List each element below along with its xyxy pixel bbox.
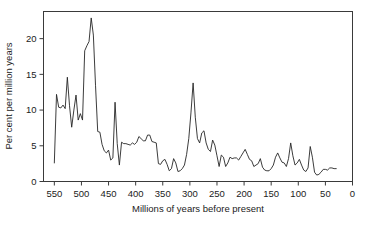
x-tick-label: 500 [74,188,90,199]
x-axis-title: Millions of years before present [132,203,264,214]
x-axis-ticks [54,182,352,186]
x-tick-label: 550 [46,188,62,199]
y-tick-label: 20 [26,33,37,44]
y-tick-label: 10 [26,104,37,115]
x-tick-label: 200 [236,188,252,199]
x-tick-label: 150 [263,188,279,199]
x-tick-label: 400 [128,188,144,199]
y-axis-tick-labels: 05101520 [26,33,37,187]
x-tick-label: 50 [320,188,331,199]
figure-container: 550500450400350300250200150100500 051015… [0,0,368,232]
x-tick-label: 300 [182,188,198,199]
y-tick-label: 0 [31,176,36,187]
x-tick-label: 350 [155,188,171,199]
x-tick-label: 450 [101,188,117,199]
y-axis-title: Per cent per million years [3,42,14,149]
y-axis-ticks [40,39,44,182]
x-axis-tick-labels: 550500450400350300250200150100500 [46,188,355,199]
extinction-rate-line-chart: 550500450400350300250200150100500 051015… [0,0,368,232]
data-series-line [54,18,336,175]
y-tick-label: 5 [31,140,36,151]
x-tick-label: 100 [290,188,306,199]
x-tick-label: 0 [350,188,355,199]
y-tick-label: 15 [26,69,37,80]
x-tick-label: 250 [209,188,225,199]
